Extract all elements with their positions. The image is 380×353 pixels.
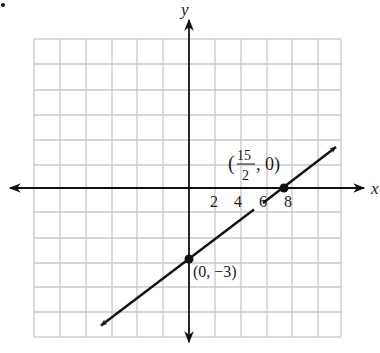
tick-label-8: 8 [284, 193, 292, 210]
tick-label-4: 4 [234, 193, 242, 210]
x-tick-labels: 2 4 6 8 [210, 193, 292, 210]
y-axis-label: y [179, 0, 189, 19]
graphed-line [101, 147, 336, 326]
x-axis-label: x [370, 179, 379, 198]
svg-text:15: 15 [237, 148, 251, 163]
svg-text:2: 2 [242, 168, 249, 183]
svg-text:, 0): , 0) [256, 154, 280, 175]
tick-label-2: 2 [210, 193, 218, 210]
coordinate-graph: x y 2 4 6 8 (0, −3) ( 15 2 , 0) [0, 0, 380, 353]
stray-dot [1, 3, 5, 7]
y-intercept-label: (0, −3) [193, 263, 237, 281]
x-intercept-point [280, 184, 289, 193]
svg-text:(: ( [228, 152, 235, 175]
